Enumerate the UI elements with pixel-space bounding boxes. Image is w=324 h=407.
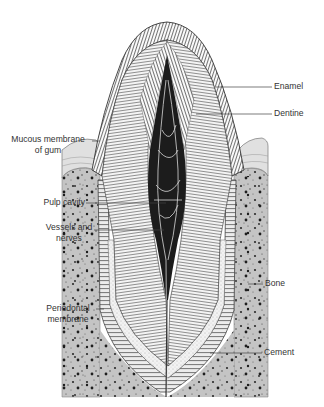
label-enamel: Enamel bbox=[274, 81, 303, 92]
label-cement: Cement bbox=[264, 347, 294, 358]
label-mucous-line2: of gum bbox=[4, 145, 92, 156]
label-mucous-line1: Mucous membrane bbox=[4, 134, 92, 145]
label-vessels-line1: Vessels and bbox=[44, 222, 94, 233]
label-mucous-membrane: Mucous membrane of gum bbox=[4, 134, 92, 156]
label-dentine: Dentine bbox=[274, 108, 304, 119]
label-periodontal-line2: membrane bbox=[40, 314, 96, 325]
label-vessels-line2: nerves bbox=[44, 233, 94, 244]
label-pulp-cavity: Pulp cavity bbox=[10, 197, 85, 208]
label-periodontal-line1: Periodontal bbox=[40, 303, 96, 314]
label-vessels-nerves: Vessels and nerves bbox=[44, 222, 94, 244]
label-periodontal-membrane: Periodontal membrane bbox=[40, 303, 96, 325]
label-bone: Bone bbox=[265, 278, 285, 289]
